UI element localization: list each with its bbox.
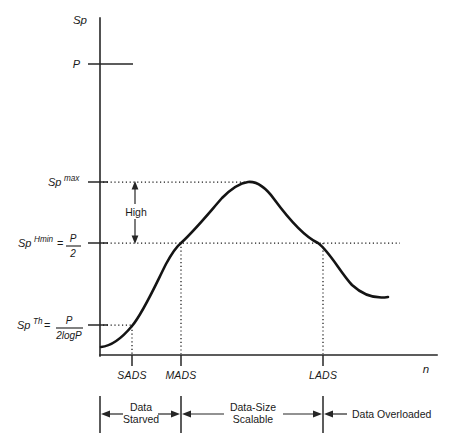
x-tick-label-SADS: SADS [117, 369, 146, 381]
region-data-starved-left-arrowhead [101, 411, 110, 418]
region-overloaded-arrowhead [324, 411, 333, 418]
y-tick-label-sp-th-base: Sp [17, 319, 30, 331]
x-tick-label-LADS: LADS [309, 369, 337, 381]
region-scalable-label-line1: Data-Size [230, 401, 276, 413]
y-tick-label-sp-hmin-denominator: 2 [69, 248, 76, 259]
y-tick-label-sp-max-sup: max [64, 174, 80, 183]
region-overloaded-label: Data Overloaded [352, 408, 432, 420]
y-tick-label-sp-th-denominator: 2logP [55, 330, 82, 341]
region-scalable-label-line2: Scalable [233, 413, 273, 425]
region-data-starved-label-line2: Starved [123, 413, 159, 425]
y-tick-label-sp-hmin-sup: Hmin [34, 235, 54, 244]
speedup-data-size-chart: Sp n P Sp max Sp Hmin = P 2 Sp Th [0, 0, 449, 441]
y-tick-label-sp-max-base: Sp [48, 176, 61, 188]
region-data-starved-right-arrowhead [171, 411, 180, 418]
figure-root: Sp n P Sp max Sp Hmin = P 2 Sp Th [0, 0, 449, 441]
x-tick-label-MADS: MADS [165, 369, 196, 381]
y-tick-label-sp-hmin-base: Sp [18, 237, 31, 249]
y-tick-label-sp-th: Sp Th = P 2logP [17, 315, 83, 341]
region-data-starved: Data Starved [101, 401, 180, 425]
y-axis-name: Sp [73, 14, 88, 26]
x-tick-marks [132, 355, 323, 366]
y-tick-marks [88, 64, 133, 325]
region-scalable-right-arrowhead [313, 411, 322, 418]
high-annotation-group: High [120, 181, 152, 244]
y-tick-label-sp-th-numerator: P [66, 315, 73, 326]
axes-group [100, 18, 437, 356]
y-tick-label-sp-th-sup: Th [33, 317, 43, 326]
y-tick-label-P: P [73, 58, 81, 70]
y-tick-label-sp-hmin-numerator: P [70, 233, 77, 244]
y-tick-label-sp-hmin-equals: = [57, 237, 63, 249]
region-bars-group: Data Starved Data-Size Scalable Data Ove… [100, 396, 432, 433]
x-axis-name: n [423, 363, 429, 375]
region-data-overloaded: Data Overloaded [324, 408, 432, 420]
region-scalable-left-arrowhead [182, 411, 191, 418]
high-label: High [125, 206, 147, 218]
y-tick-label-sp-th-equals: = [44, 319, 50, 331]
region-data-starved-label-line1: Data [130, 401, 152, 413]
region-data-size-scalable: Data-Size Scalable [182, 401, 322, 425]
y-tick-label-sp-hmin: Sp Hmin = P 2 [18, 233, 81, 259]
y-tick-label-sp-max: Sp max [48, 174, 80, 188]
